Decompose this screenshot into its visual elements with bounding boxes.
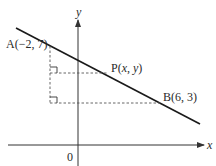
right-angle-mark-lower — [50, 97, 57, 103]
point-A-label: A(−2, 7) — [6, 37, 47, 51]
point-P-label: P(x, y) — [111, 61, 142, 75]
point-B-label: B(6, 3) — [163, 90, 197, 104]
x-axis-label: x — [206, 138, 213, 152]
right-angle-mark-upper — [50, 67, 57, 73]
origin-label: 0 — [67, 150, 73, 164]
y-axis-label: y — [75, 5, 82, 19]
coordinate-diagram: A(−2, 7) P(x, y) B(6, 3) y x 0 — [0, 0, 216, 166]
